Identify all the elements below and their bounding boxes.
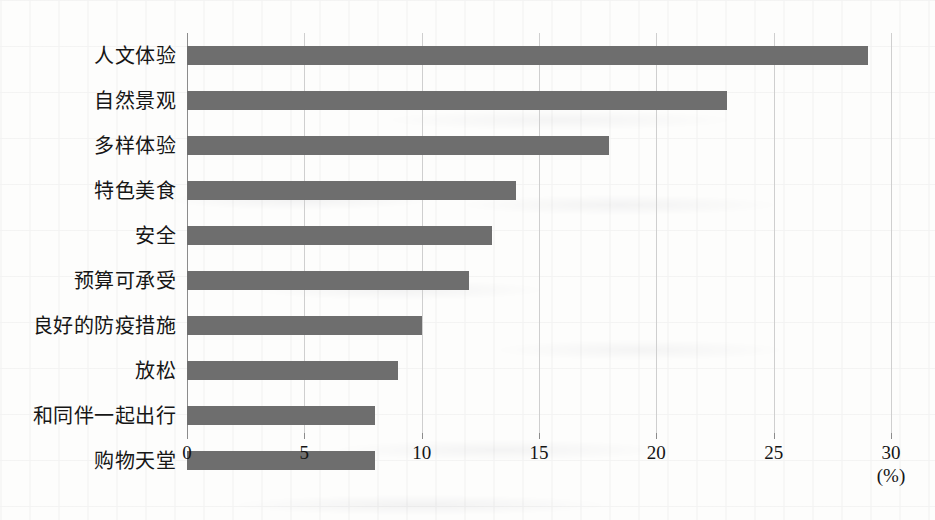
category-row: 放松 [0,348,182,393]
category-label: 安全 [135,226,176,246]
category-row: 特色美食 [0,168,182,213]
bar [187,46,868,65]
category-row: 预算可承受 [0,258,182,303]
bar [187,316,422,335]
bar [187,271,469,290]
bar [187,361,398,380]
category-label: 预算可承受 [74,271,177,291]
tickmark-5 [304,433,305,439]
category-label: 良好的防疫措施 [33,316,177,336]
tickmark-0 [187,433,188,439]
category-row: 安全 [0,213,182,258]
category-label: 多样体验 [94,136,176,156]
category-row: 和同伴一起出行 [0,393,182,438]
category-row: 自然景观 [0,78,182,123]
gridline-30 [891,33,892,438]
x-tick-label: 15 [530,443,549,462]
tickmark-30 [891,433,892,439]
chart-page: 人文体验自然景观多样体验特色美食安全预算可承受良好的防疫措施放松和同伴一起出行购… [0,0,935,520]
x-tick-label: 20 [647,443,666,462]
bar [187,181,516,200]
category-row: 人文体验 [0,33,182,78]
gridline-25 [774,33,775,438]
bar [187,406,375,425]
category-label: 和同伴一起出行 [33,406,177,426]
x-tick-label: 30 [882,443,901,462]
category-row: 购物天堂 [0,438,182,483]
category-label: 人文体验 [94,46,176,66]
category-label: 特色美食 [94,181,176,201]
category-label: 购物天堂 [94,451,176,471]
tickmark-15 [539,433,540,439]
category-label: 放松 [135,361,176,381]
x-tick-label: 10 [412,443,431,462]
bar [187,136,609,155]
bar [187,451,375,470]
category-row: 多样体验 [0,123,182,168]
tickmark-20 [656,433,657,439]
x-tick-label: 5 [300,443,310,462]
x-axis-unit-label: (%) [877,466,905,485]
bar-chart-plot-area: 人文体验自然景观多样体验特色美食安全预算可承受良好的防疫措施放松和同伴一起出行购… [0,0,935,520]
bar [187,91,727,110]
tickmark-10 [422,433,423,439]
category-label: 自然景观 [94,91,176,111]
bar [187,226,492,245]
tickmark-25 [774,433,775,439]
x-tick-label: 25 [764,443,783,462]
category-axis-labels: 人文体验自然景观多样体验特色美食安全预算可承受良好的防疫措施放松和同伴一起出行购… [0,33,182,483]
x-tick-label: 0 [182,443,192,462]
category-row: 良好的防疫措施 [0,303,182,348]
